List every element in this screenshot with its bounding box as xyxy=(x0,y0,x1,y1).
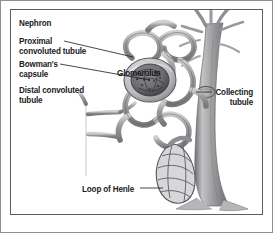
label-distal-tubule: Distal convoluted tubule xyxy=(19,85,84,106)
label-bowmans-capsule: Bowman's capsule xyxy=(19,59,58,80)
label-glomerulus: Glomerulus xyxy=(117,68,160,78)
label-nephron: Nephron xyxy=(19,18,51,28)
label-proximal-tubule: Proximal convoluted tubule xyxy=(19,36,86,57)
nephron-figure: Nephron Proximal convoluted tubule Bowma… xyxy=(0,0,273,233)
label-loop-of-henle: Loop of Henle xyxy=(82,184,134,194)
label-collecting-tubule: Collecting tubule xyxy=(215,87,253,108)
